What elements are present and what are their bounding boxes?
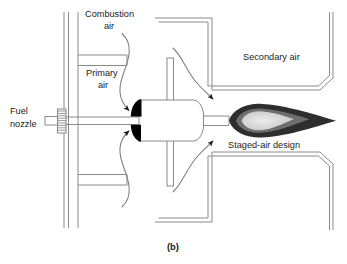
burner-cone: [139, 100, 204, 141]
secondary-air-duct-lower: [155, 152, 333, 230]
label-fuel-nozzle-line1: Fuel: [10, 106, 28, 116]
label-secondary-air: Secondary air: [243, 52, 300, 62]
label-primary-air-line1: Primary: [86, 68, 118, 78]
staged-air-burner-diagram: Combustion air Primary air Fuel nozzle S…: [0, 0, 347, 264]
label-primary-air-line2: air: [98, 80, 108, 90]
primary-air-shelf-lower: [78, 175, 127, 186]
fuel-nozzle-flange: [58, 109, 67, 133]
figure-canvas: Combustion air Primary air Fuel nozzle S…: [0, 0, 347, 264]
primary-air-shelf-upper: [78, 55, 127, 66]
secondary-air-flow-lower: [173, 141, 213, 192]
secondary-air-duct-upper: [155, 12, 333, 90]
label-combustion-air-line2: air: [104, 21, 114, 31]
fuel-nozzle: [45, 117, 59, 126]
cone-outlet-stub: [204, 116, 230, 126]
label-fuel-nozzle-line2: nozzle: [10, 119, 37, 129]
fuel-tube: [66, 117, 141, 125]
figure-caption: (b): [167, 241, 179, 252]
label-staged-air-design: Staged-air design: [228, 140, 300, 150]
combustion-air-flow-lower: [120, 131, 129, 207]
flame: [229, 104, 336, 138]
secondary-air-flow-upper: [173, 48, 213, 99]
combustion-air-flow-upper: [120, 34, 129, 111]
label-combustion-air-line1: Combustion: [85, 9, 134, 19]
